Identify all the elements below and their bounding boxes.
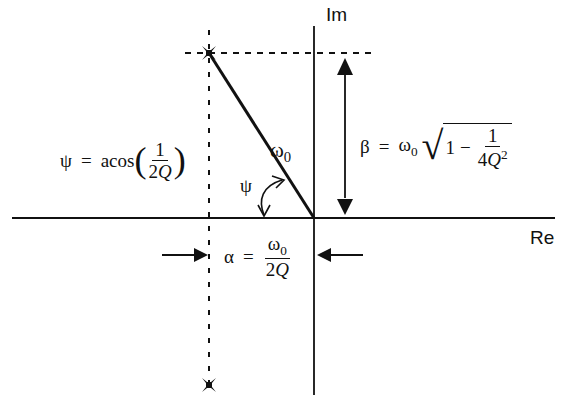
beta-arrow-up-head bbox=[337, 58, 353, 75]
beta-fraction: 1 4Q2 bbox=[478, 126, 508, 169]
alpha-lhs: α bbox=[224, 247, 234, 266]
sqrt-radical-icon: √ bbox=[422, 126, 444, 166]
beta-arrow-down-head bbox=[337, 199, 353, 215]
alpha-den-var: Q bbox=[275, 259, 289, 280]
beta-denominator: 4Q2 bbox=[478, 147, 508, 169]
beta-sqrt: √ 1 − 1 4Q2 bbox=[422, 123, 512, 169]
psi-den-var: Q bbox=[158, 161, 172, 182]
beta-den-exp: 2 bbox=[501, 147, 508, 162]
beta-den-coef: 4 bbox=[478, 149, 488, 170]
s-plane-diagram bbox=[0, 0, 565, 408]
omega-vector-label: ω0 bbox=[270, 140, 291, 165]
psi-equals: = bbox=[81, 151, 92, 170]
omega-subscript: 0 bbox=[284, 149, 291, 165]
beta-equals: = bbox=[379, 137, 390, 156]
alpha-arrow-left-head bbox=[194, 248, 208, 262]
imaginary-axis-label: Im bbox=[326, 5, 347, 24]
beta-sqrt-body: 1 − 1 4Q2 bbox=[443, 123, 511, 169]
alpha-equals: = bbox=[243, 247, 254, 266]
alpha-arrow-right-head bbox=[317, 248, 331, 262]
psi-numerator: 1 bbox=[152, 140, 168, 161]
beta-one: 1 bbox=[445, 138, 455, 157]
alpha-den-coef: 2 bbox=[266, 259, 276, 280]
psi-close-paren: ) bbox=[174, 142, 186, 178]
beta-den-var: Q bbox=[487, 149, 501, 170]
beta-equation: β = ω0 √ 1 − 1 4Q2 bbox=[360, 123, 512, 169]
beta-minus: − bbox=[460, 138, 471, 157]
beta-omega-symbol: ω bbox=[398, 134, 411, 155]
psi-den-coef: 2 bbox=[148, 161, 158, 182]
alpha-equation: α = ω0 2Q bbox=[224, 234, 292, 279]
alpha-num-symbol: ω bbox=[268, 233, 281, 254]
omega-vector bbox=[209, 53, 314, 218]
beta-omega: ω0 bbox=[398, 135, 417, 158]
beta-numerator: 1 bbox=[485, 126, 501, 147]
psi-denominator: 2Q bbox=[148, 161, 171, 181]
omega-symbol: ω bbox=[270, 138, 284, 162]
alpha-denominator: 2Q bbox=[266, 259, 289, 279]
psi-fraction: 1 2Q bbox=[148, 140, 171, 181]
psi-lhs: ψ bbox=[60, 151, 72, 170]
psi-equation: ψ = acos ( 1 2Q ) bbox=[60, 140, 186, 181]
alpha-numerator: ω0 bbox=[265, 234, 290, 259]
alpha-fraction: ω0 2Q bbox=[265, 234, 290, 279]
psi-open-paren: ( bbox=[134, 142, 146, 178]
beta-lhs: β bbox=[360, 137, 370, 156]
psi-angle-label: ψ bbox=[240, 176, 252, 195]
real-axis-label: Re bbox=[530, 228, 554, 247]
alpha-num-sub: 0 bbox=[280, 243, 287, 258]
psi-func: acos bbox=[101, 151, 135, 170]
beta-omega-subscript: 0 bbox=[411, 143, 418, 158]
psi-arc-head-bottom bbox=[258, 205, 270, 216]
